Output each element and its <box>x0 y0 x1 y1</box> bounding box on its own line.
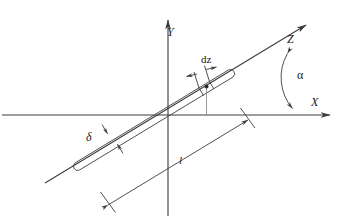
element-label-dz: dz <box>201 54 211 65</box>
inclined-bar <box>73 69 234 170</box>
thickness-delta-dimension <box>102 125 123 154</box>
diagram-canvas: Y Z X α δ dz l <box>0 0 347 222</box>
length-l-dimension <box>101 108 256 213</box>
length-label-l: l <box>179 155 182 166</box>
element-projection-dot <box>205 85 209 89</box>
angle-alpha-arc <box>281 54 292 109</box>
axis-label-y: Y <box>167 26 174 38</box>
thickness-label-delta: δ <box>86 131 92 143</box>
dz-dimension <box>187 66 217 89</box>
axis-z <box>45 25 306 183</box>
axis-label-z: Z <box>287 33 294 45</box>
axis-label-x: X <box>311 96 318 108</box>
angle-label-alpha: α <box>297 69 303 81</box>
